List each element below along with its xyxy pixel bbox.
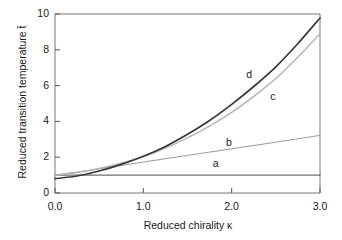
y-tick-label: 4 <box>13 114 49 126</box>
x-tick-label: 2.0 <box>212 200 252 212</box>
curve-label-c: c <box>270 90 275 102</box>
y-tick-label: 10 <box>13 7 49 19</box>
y-tick-label: 2 <box>13 150 49 162</box>
y-tick-label: 8 <box>13 43 49 55</box>
axis-ticks <box>55 14 320 193</box>
curve-d <box>55 18 320 179</box>
chart-figure: Reduced transition temperature t̄ Reduce… <box>0 0 342 240</box>
y-tick-label: 0 <box>13 186 49 198</box>
y-tick-label: 6 <box>13 79 49 91</box>
x-tick-label: 3.0 <box>300 200 340 212</box>
x-tick-label: 0.0 <box>35 200 75 212</box>
x-axis-title: Reduced chirality κ <box>55 219 321 231</box>
curve-label-a: a <box>213 157 219 169</box>
axes-frame <box>55 14 320 193</box>
data-curves <box>55 18 320 179</box>
curve-label-b: b <box>226 136 232 148</box>
curve-c <box>55 34 320 175</box>
y-axis-title: Reduced transition temperature t̄ <box>16 2 28 202</box>
x-tick-label: 1.0 <box>123 200 163 212</box>
curve-label-d: d <box>246 68 252 80</box>
